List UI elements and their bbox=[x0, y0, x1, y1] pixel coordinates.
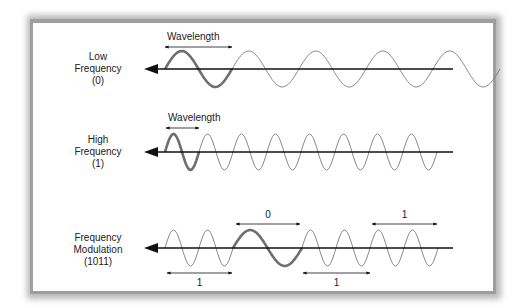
row-high-frequency: Wavelength bbox=[144, 112, 453, 170]
bit-label: 0 bbox=[265, 209, 271, 220]
span-annotation: 1 bbox=[167, 273, 232, 288]
bit-label: 1 bbox=[402, 209, 408, 220]
wavelength-label: Wavelength bbox=[167, 31, 219, 42]
axis-arrowhead-icon bbox=[144, 147, 158, 157]
waveform-diagram: WavelengthWavelength1011 bbox=[0, 0, 525, 308]
span-annotation: 0 bbox=[236, 209, 300, 224]
span-annotation: Wavelength bbox=[166, 112, 220, 128]
span-annotation: Wavelength bbox=[165, 31, 232, 47]
span-annotation: 1 bbox=[372, 209, 437, 224]
axis-arrowhead-icon bbox=[144, 64, 158, 74]
span-annotation: 1 bbox=[303, 273, 370, 288]
waveform-rows: WavelengthWavelength1011 bbox=[144, 31, 500, 288]
bit-label: 1 bbox=[197, 277, 203, 288]
wavelength-label: Wavelength bbox=[168, 112, 220, 123]
row-low-frequency: Wavelength bbox=[144, 31, 500, 87]
axis-arrowhead-icon bbox=[144, 243, 158, 253]
bit-label: 1 bbox=[334, 277, 340, 288]
row-frequency-modulation: 1011 bbox=[144, 209, 453, 288]
